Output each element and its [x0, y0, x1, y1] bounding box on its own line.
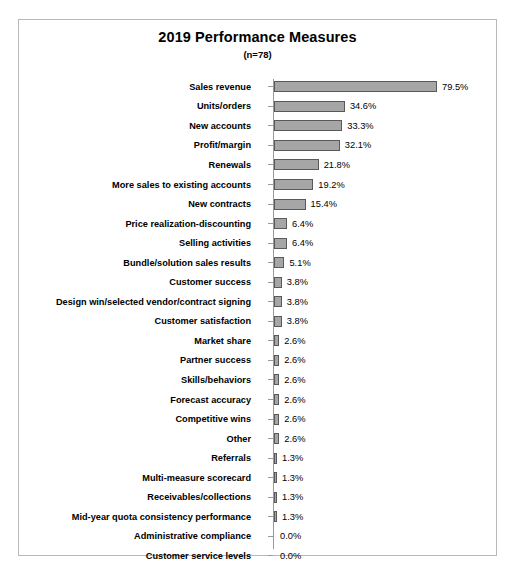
- category-label: Competitive wins: [1, 414, 251, 424]
- bar-container: 32.1%: [274, 136, 371, 156]
- bar-row: New accounts33.3%: [19, 116, 496, 136]
- chart-subtitle: (n=78): [19, 49, 496, 60]
- bar-row: Units/orders34.6%: [19, 97, 496, 117]
- axis-tick: [268, 106, 273, 107]
- category-label: Skills/behaviors: [1, 375, 251, 385]
- category-label: Renewals: [1, 160, 251, 170]
- bar-container: 2.6%: [274, 429, 306, 449]
- value-label: 2.6%: [284, 395, 305, 405]
- bar-container: 15.4%: [274, 194, 337, 214]
- axis-tick: [268, 86, 273, 87]
- category-label: Units/orders: [1, 101, 251, 111]
- value-label: 32.1%: [345, 140, 371, 150]
- category-label: Administrative compliance: [1, 531, 251, 541]
- value-label: 0.0%: [280, 531, 301, 541]
- bar-container: 1.3%: [274, 468, 303, 488]
- value-label: 33.3%: [347, 121, 373, 131]
- value-label: 3.8%: [287, 316, 308, 326]
- axis-tick: [268, 497, 273, 498]
- bar-container: 34.6%: [274, 97, 376, 117]
- value-label: 21.8%: [324, 160, 350, 170]
- bar-container: 0.0%: [274, 527, 301, 547]
- axis-tick: [268, 379, 273, 380]
- axis-tick: [268, 399, 273, 400]
- value-label: 6.4%: [292, 219, 313, 229]
- value-label: 1.3%: [282, 512, 303, 522]
- axis-tick: [268, 340, 273, 341]
- category-label: Market share: [1, 336, 251, 346]
- value-label: 2.6%: [284, 414, 305, 424]
- value-label: 0.0%: [280, 551, 301, 561]
- value-label: 1.3%: [282, 473, 303, 483]
- bar-row: Customer satisfaction3.8%: [19, 312, 496, 332]
- bar-row: Sales revenue79.5%: [19, 77, 496, 97]
- axis-tick: [268, 145, 273, 146]
- bar: [274, 472, 277, 483]
- bar-row: Market share2.6%: [19, 331, 496, 351]
- value-label: 19.2%: [318, 180, 344, 190]
- bar-row: Bundle/solution sales results5.1%: [19, 253, 496, 273]
- axis-tick: [268, 301, 273, 302]
- category-label: Multi-measure scorecard: [1, 473, 251, 483]
- bar: [274, 218, 287, 229]
- bar-container: 6.4%: [274, 233, 313, 253]
- bar-container: 1.3%: [274, 507, 303, 527]
- bar: [274, 433, 279, 444]
- axis-tick: [268, 262, 273, 263]
- bar-container: 2.6%: [274, 370, 306, 390]
- bar: [274, 179, 313, 190]
- axis-tick: [268, 223, 273, 224]
- bar-row: Competitive wins2.6%: [19, 409, 496, 429]
- value-label: 5.1%: [289, 258, 310, 268]
- category-label: Customer service levels: [1, 551, 251, 561]
- value-label: 3.8%: [287, 297, 308, 307]
- value-label: 15.4%: [311, 199, 337, 209]
- chart-frame: 2019 Performance Measures (n=78) Sales r…: [18, 19, 497, 556]
- bar-container: 21.8%: [274, 155, 350, 175]
- bar-container: 33.3%: [274, 116, 374, 136]
- bar-container: 3.8%: [274, 312, 308, 332]
- axis-tick: [268, 477, 273, 478]
- category-label: Other: [1, 434, 251, 444]
- category-label: Bundle/solution sales results: [1, 258, 251, 268]
- category-label: Sales revenue: [1, 82, 251, 92]
- axis-tick: [268, 321, 273, 322]
- value-label: 2.6%: [284, 434, 305, 444]
- axis-tick: [268, 204, 273, 205]
- bar-row: Renewals21.8%: [19, 155, 496, 175]
- bar-container: 19.2%: [274, 175, 345, 195]
- bar-container: 3.8%: [274, 292, 308, 312]
- axis-tick: [268, 184, 273, 185]
- bar: [274, 257, 284, 268]
- axis-tick: [268, 243, 273, 244]
- bar-container: 0.0%: [274, 546, 301, 566]
- category-label: Price realization-discounting: [1, 219, 251, 229]
- value-label: 2.6%: [284, 375, 305, 385]
- bar-row: Design win/selected vendor/contract sign…: [19, 292, 496, 312]
- bar: [274, 296, 282, 307]
- bar-row: Price realization-discounting6.4%: [19, 214, 496, 234]
- bar-container: 3.8%: [274, 272, 308, 292]
- bar-row: Partner success2.6%: [19, 351, 496, 371]
- category-label: Profit/margin: [1, 140, 251, 150]
- axis-tick: [268, 536, 273, 537]
- category-label: Referrals: [1, 453, 251, 463]
- bar-row: New contracts15.4%: [19, 194, 496, 214]
- bar: [274, 335, 279, 346]
- bar-row: Profit/margin32.1%: [19, 136, 496, 156]
- value-label: 1.3%: [282, 492, 303, 502]
- category-label: Customer satisfaction: [1, 316, 251, 326]
- bar: [274, 140, 340, 151]
- bar: [274, 238, 287, 249]
- bar-row: More sales to existing accounts19.2%: [19, 175, 496, 195]
- bar: [274, 277, 282, 288]
- axis-tick: [268, 516, 273, 517]
- axis-tick: [268, 438, 273, 439]
- bar-row: Administrative compliance0.0%: [19, 527, 496, 547]
- axis-tick: [268, 458, 273, 459]
- axis-tick: [268, 419, 273, 420]
- bar: [274, 355, 279, 366]
- bar: [274, 159, 319, 170]
- axis-tick: [268, 125, 273, 126]
- axis-tick: [268, 282, 273, 283]
